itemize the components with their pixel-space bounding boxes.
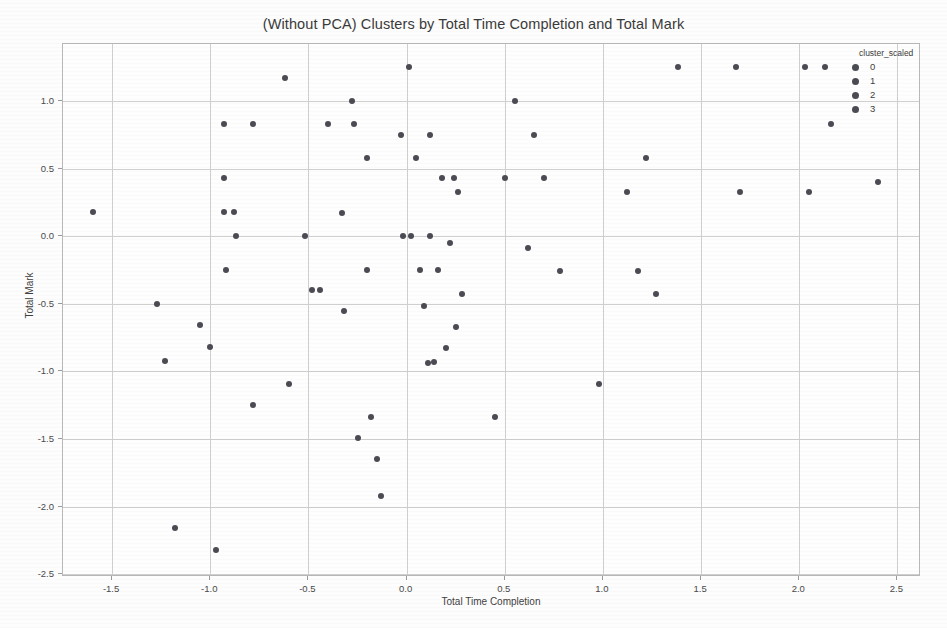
y-tick-label-4: -1.0 [20, 365, 54, 376]
x-tick-label-4: 0.5 [497, 583, 510, 594]
y-tick-mark-7 [58, 573, 62, 574]
data-point [221, 209, 227, 215]
data-point [339, 210, 345, 216]
legend-item-label: 1 [870, 75, 875, 86]
data-point [302, 233, 308, 239]
legend-marker-icon [852, 92, 859, 99]
data-point [643, 155, 649, 161]
data-point [427, 132, 433, 138]
legend-item-2[interactable]: 2 [848, 88, 940, 102]
y-tick-label-2: 0.0 [20, 230, 54, 241]
x-tick-mark-3 [406, 576, 407, 580]
legend-marker-icon [852, 64, 859, 71]
data-point [351, 121, 357, 127]
data-point [162, 358, 168, 364]
scatter-plot-figure: (Without PCA) Clusters by Total Time Com… [0, 0, 947, 628]
data-point [802, 64, 808, 70]
data-point [624, 189, 630, 195]
y-tick-mark-1 [58, 168, 62, 169]
x-tick-label-0: -1.5 [103, 583, 119, 594]
data-point [197, 322, 203, 328]
data-point [453, 324, 459, 330]
data-point [250, 402, 256, 408]
legend-marker-icon [852, 78, 859, 85]
y-tick-label-5: -1.5 [20, 433, 54, 444]
data-point [286, 381, 292, 387]
data-point [512, 98, 518, 104]
data-point [207, 344, 213, 350]
data-point [374, 456, 380, 462]
y-tick-label-1: 0.5 [20, 162, 54, 173]
data-point [443, 345, 449, 351]
y-tick-mark-3 [58, 303, 62, 304]
page-title: (Without PCA) Clusters by Total Time Com… [0, 16, 947, 32]
x-tick-label-1: -1.0 [201, 583, 217, 594]
data-point [828, 121, 834, 127]
data-point [557, 268, 563, 274]
data-point [431, 359, 437, 365]
data-point [596, 381, 602, 387]
y-tick-label-0: 1.0 [20, 94, 54, 105]
y-axis-label: Total Mark [24, 251, 35, 341]
data-point [408, 233, 414, 239]
data-point [341, 308, 347, 314]
legend-item-3[interactable]: 3 [848, 102, 940, 116]
data-point [250, 121, 256, 127]
legend-item-1[interactable]: 1 [848, 74, 940, 88]
legend-item-label: 0 [870, 61, 875, 72]
data-point [675, 64, 681, 70]
data-point [635, 268, 641, 274]
legend-marker-icon [852, 106, 859, 113]
data-point [413, 155, 419, 161]
x-tick-label-2: -0.5 [299, 583, 315, 594]
data-point [400, 233, 406, 239]
data-point [541, 175, 547, 181]
data-point [213, 547, 219, 553]
data-point [427, 233, 433, 239]
data-point [492, 414, 498, 420]
data-point [531, 132, 537, 138]
data-point [223, 267, 229, 273]
x-axis-label: Total Time Completion [62, 596, 920, 607]
data-point [154, 301, 160, 307]
legend-item-label: 3 [870, 103, 875, 114]
data-point [233, 233, 239, 239]
data-point [447, 240, 453, 246]
y-tick-mark-6 [58, 506, 62, 507]
data-point [221, 121, 227, 127]
data-point [349, 98, 355, 104]
data-point [502, 175, 508, 181]
data-point [172, 525, 178, 531]
x-tick-mark-5 [602, 576, 603, 580]
plot-area [62, 43, 920, 576]
data-point [355, 435, 361, 441]
y-tick-mark-4 [58, 370, 62, 371]
y-tick-mark-2 [58, 235, 62, 236]
data-point [417, 267, 423, 273]
legend-title: cluster_scaled [859, 48, 913, 58]
data-point [317, 287, 323, 293]
y-tick-label-6: -2.0 [20, 500, 54, 511]
x-tick-mark-4 [504, 576, 505, 580]
legend-item-0[interactable]: 0 [848, 60, 940, 74]
x-tick-mark-2 [307, 576, 308, 580]
data-point [309, 287, 315, 293]
data-point [406, 64, 412, 70]
x-tick-mark-1 [209, 576, 210, 580]
y-tick-label-7: -2.5 [20, 568, 54, 579]
x-tick-mark-6 [700, 576, 701, 580]
x-tick-label-5: 1.0 [595, 583, 608, 594]
data-point [398, 132, 404, 138]
data-point [733, 64, 739, 70]
data-points-layer [63, 44, 919, 575]
data-point [325, 121, 331, 127]
data-point [455, 189, 461, 195]
data-point [822, 64, 828, 70]
data-point [459, 291, 465, 297]
data-point [451, 175, 457, 181]
x-tick-mark-0 [111, 576, 112, 580]
y-tick-mark-0 [58, 100, 62, 101]
data-point [653, 291, 659, 297]
data-point [221, 175, 227, 181]
legend-item-label: 2 [870, 89, 875, 100]
